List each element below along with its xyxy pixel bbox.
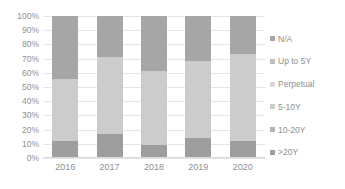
x-axis-tick-label: 2016 <box>45 162 85 173</box>
bar-column[interactable] <box>52 16 78 158</box>
bar-segment[interactable] <box>52 16 78 78</box>
bar-segment[interactable] <box>230 16 256 54</box>
x-axis-baseline <box>43 157 265 158</box>
y-axis-tick-label: 40% <box>1 97 39 106</box>
y-axis: 100%90%80%70%60%50%40%30%20%10%0% <box>0 10 42 164</box>
x-axis-tick-label: 2017 <box>90 162 130 173</box>
bar-column[interactable] <box>97 16 123 158</box>
x-axis-tick-label: 2018 <box>134 162 174 173</box>
legend-item[interactable]: 10-20Y <box>270 124 345 135</box>
legend-label: Up to 5Y <box>278 56 311 66</box>
bar-column[interactable] <box>185 16 211 158</box>
bar-segment[interactable] <box>185 16 211 61</box>
bar-segment[interactable] <box>52 79 78 141</box>
bar-series-container <box>43 16 265 158</box>
y-axis-tick-label: 30% <box>1 111 39 120</box>
legend-label: Perpetual <box>278 79 314 89</box>
x-axis-tick-label: 2019 <box>178 162 218 173</box>
legend-swatch-icon <box>270 104 275 109</box>
legend-label: N/A <box>278 34 292 44</box>
y-axis-tick-label: 100% <box>1 12 39 21</box>
bar-segment[interactable] <box>185 138 211 158</box>
legend-label: 10-20Y <box>278 125 305 135</box>
legend-item[interactable]: 5-10Y <box>270 101 345 112</box>
bar-column[interactable] <box>141 16 167 158</box>
legend-item[interactable]: Perpetual <box>270 79 345 90</box>
legend-swatch-icon <box>270 36 275 41</box>
legend-item[interactable]: N/A <box>270 33 345 44</box>
legend-item[interactable]: Up to 5Y <box>270 56 345 67</box>
bar-segment[interactable] <box>97 57 123 134</box>
y-axis-tick-label: 60% <box>1 68 39 77</box>
gridline <box>43 158 265 159</box>
stacked-bar-chart: 100%90%80%70%60%50%40%30%20%10%0% 201620… <box>0 0 345 189</box>
legend-swatch-icon <box>270 127 275 132</box>
chart-legend: N/AUp to 5YPerpetual5-10Y10-20Y>20Y <box>270 33 345 158</box>
legend-label: >20Y <box>278 147 298 157</box>
y-axis-tick-label: 50% <box>1 83 39 92</box>
bar-segment[interactable] <box>230 141 256 158</box>
legend-item[interactable]: >20Y <box>270 147 345 158</box>
y-axis-tick-label: 0% <box>1 154 39 163</box>
y-axis-tick-label: 10% <box>1 139 39 148</box>
plot-area <box>43 16 265 158</box>
bar-segment[interactable] <box>97 134 123 158</box>
bar-segment[interactable] <box>185 61 211 138</box>
legend-swatch-icon <box>270 59 275 64</box>
legend-swatch-icon <box>270 150 275 155</box>
legend-swatch-icon <box>270 82 275 87</box>
bar-segment[interactable] <box>141 16 167 71</box>
bar-segment[interactable] <box>230 54 256 141</box>
bar-column[interactable] <box>230 16 256 158</box>
bar-segment[interactable] <box>52 141 78 158</box>
y-axis-tick-label: 70% <box>1 54 39 63</box>
bar-segment[interactable] <box>141 71 167 145</box>
y-axis-tick-label: 90% <box>1 26 39 35</box>
x-axis: 20162017201820192020 <box>43 162 265 178</box>
legend-label: 5-10Y <box>278 102 301 112</box>
y-axis-tick-label: 20% <box>1 125 39 134</box>
x-axis-tick-label: 2020 <box>223 162 263 173</box>
bar-segment[interactable] <box>97 16 123 57</box>
y-axis-tick-label: 80% <box>1 40 39 49</box>
